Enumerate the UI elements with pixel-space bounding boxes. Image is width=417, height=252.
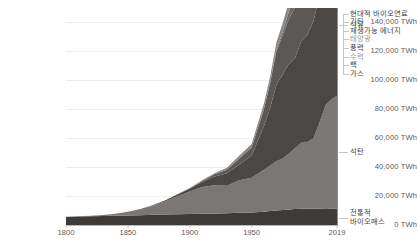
y-axis-tick-label: 20,000 TWh <box>353 192 417 200</box>
x-axis-tick-label: 1850 <box>119 229 136 237</box>
energy-stacked-area-chart: 0 TWh20,000 TWh40,000 TWh60,000 TWh80,00… <box>0 0 417 252</box>
legend-leader-coal <box>339 152 348 153</box>
x-axis-tick-label: 2019 <box>329 229 346 237</box>
legend-bracket-spine <box>343 14 344 74</box>
plot-area <box>66 8 337 225</box>
legend-leader-stub <box>343 74 349 75</box>
stacked-areas <box>66 8 337 225</box>
x-axis-tick-label: 1950 <box>243 229 260 237</box>
plot-right-edge <box>337 8 338 226</box>
y-axis-tick-label: 80,000 TWh <box>353 105 417 113</box>
legend-leader-biomass <box>339 218 348 219</box>
x-axis-line <box>66 225 337 226</box>
x-axis-tick-label: 1900 <box>181 229 198 237</box>
legend-label-oil: 석유 <box>350 21 364 30</box>
y-axis-tick-label: 40,000 TWh <box>353 163 417 171</box>
x-axis-tick-label: 1800 <box>58 229 75 237</box>
y-axis-tick-label: 60,000 TWh <box>353 134 417 142</box>
legend-leader-oil <box>339 25 348 26</box>
legend-label-coal: 석탄 <box>350 148 364 157</box>
legend-label-7: 가스 <box>350 70 364 79</box>
legend-label-traditional-biomass-line2: 바이오매스 <box>350 218 385 227</box>
